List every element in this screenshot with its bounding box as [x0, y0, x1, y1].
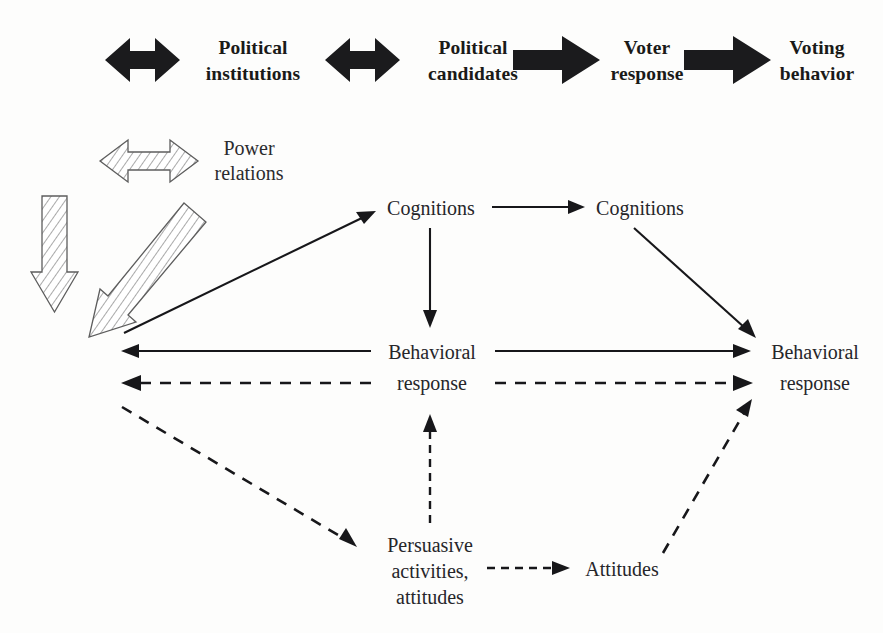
header-label-voter-response-line1: Voter: [624, 37, 671, 58]
node-labels: Cognitions Cognitions Behavioral respons…: [387, 197, 859, 608]
connector-double-arrow-0: [105, 38, 180, 82]
node-label-behavioral-response-right-line1: Behavioral: [771, 341, 859, 363]
connector-double-arrow-1: [325, 38, 400, 82]
header-label-political-institutions-line2: institutions: [206, 63, 301, 84]
edge-attitudes-to-behavioral-right: [663, 399, 752, 553]
node-label-behavioral-response-left-line2: response: [397, 372, 467, 395]
solid-edges: [121, 200, 756, 358]
node-label-cognitions-left: Cognitions: [387, 197, 475, 220]
edge-cognitions-to-behavioral: [423, 228, 437, 328]
power-relations-double-arrow: [100, 140, 198, 182]
power-relations-label-line2: relations: [215, 162, 284, 184]
connector-single-arrow-3: [684, 36, 771, 84]
node-label-persuasive-activities-line2: activities,: [391, 560, 468, 582]
header-label-voter-response-line2: response: [610, 63, 683, 84]
edge-cognitions-right-to-behavioral-right: [634, 228, 756, 338]
node-label-behavioral-response-left-line1: Behavioral: [388, 341, 476, 363]
power-relations-diagonal-arrow: [89, 203, 206, 337]
diagram-canvas: Political institutions Political candida…: [0, 0, 883, 633]
diagram-page: Political institutions Political candida…: [0, 0, 883, 633]
node-label-persuasive-activities-line3: attitudes: [396, 586, 464, 608]
header-label-voting-behavior-line1: Voting: [789, 37, 844, 58]
header-label-political-candidates-line1: Political: [438, 37, 508, 58]
connector-single-arrow-2: [513, 36, 600, 84]
node-label-behavioral-response-right-line2: response: [780, 372, 850, 395]
header-label-political-institutions-line1: Political: [218, 37, 288, 58]
header-label-political-candidates-line2: candidates: [428, 63, 518, 84]
edge-behavioral-dashed-to-left-margin: [121, 375, 371, 391]
header-chain: Political institutions Political candida…: [105, 36, 854, 84]
power-relations-group: Power relations: [31, 137, 284, 337]
edge-cognitions-to-cognitions: [492, 200, 585, 214]
edge-left-margin-to-persuasive: [122, 407, 357, 547]
node-label-attitudes: Attitudes: [585, 558, 659, 580]
node-label-persuasive-activities-line1: Persuasive: [387, 534, 473, 556]
edge-persuasive-to-attitudes: [487, 561, 570, 575]
edge-persuasive-to-behavioral: [423, 414, 437, 523]
edge-behavioral-to-left-margin: [121, 344, 371, 358]
power-relations-down-arrow: [31, 196, 78, 312]
power-relations-label-line1: Power: [223, 137, 274, 159]
node-label-cognitions-right: Cognitions: [596, 197, 684, 220]
edge-behavioral-dashed-to-behavioral-right: [495, 375, 753, 391]
header-label-voting-behavior-line2: behavior: [780, 63, 855, 84]
edge-behavioral-to-behavioral: [495, 344, 751, 358]
